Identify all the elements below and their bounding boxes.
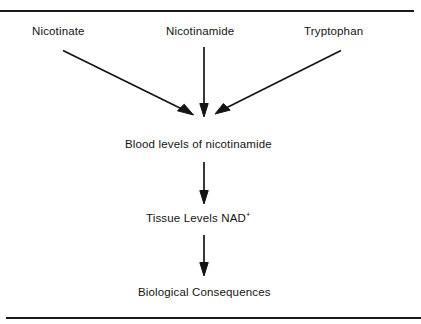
node-label-tissue-nad: Tissue Levels NAD+: [146, 211, 250, 225]
tissue-nad-text: Tissue Levels NAD: [146, 212, 246, 224]
pathway-diagram: Nicotinate Nicotinamide Tryptophan Blood…: [0, 0, 421, 324]
tissue-nad-superscript: +: [246, 210, 251, 219]
node-label-biological-consequences: Biological Consequences: [138, 285, 271, 299]
arrow-tryptophan-to-blood: [215, 51, 341, 115]
arrow-nicotinamide-to-blood: [200, 47, 208, 117]
arrow-tissue-to-biological: [200, 235, 208, 276]
bottom-horizontal-rule: [6, 317, 421, 319]
arrow-nicotinate-to-blood: [63, 51, 194, 116]
arrow-blood-to-tissue: [200, 162, 208, 204]
arrow-layer: [0, 0, 421, 324]
node-label-blood-levels: Blood levels of nicotinamide: [125, 137, 272, 151]
